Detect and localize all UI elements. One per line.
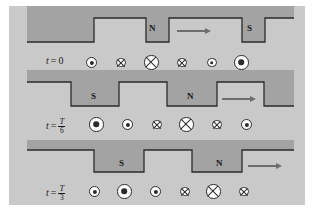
field-symbol-dot: [234, 55, 249, 70]
wave-outline-t-over-3: [9, 134, 305, 179]
pole-label-s: S: [91, 92, 96, 101]
magnetic-field-figure: N S t=0: [9, 6, 305, 205]
motion-arrow-icon: [248, 163, 282, 169]
field-symbol-dot: [150, 186, 161, 197]
field-symbol-dot: [207, 58, 217, 68]
pole-label-s: S: [119, 159, 124, 168]
pole-label-n: N: [216, 159, 223, 168]
pole-label-n: N: [187, 92, 194, 101]
field-symbol-dot: [86, 57, 97, 68]
panel-t0: N S t=0: [9, 6, 305, 70]
field-symbol-cross: [179, 117, 194, 132]
field-symbol-cross: [212, 120, 222, 130]
wave-outline-t-over-6: [9, 70, 305, 115]
pole-label-n: N: [149, 24, 156, 33]
field-symbol-cross: [180, 187, 190, 197]
field-symbol-cross: [206, 184, 221, 199]
field-symbol-cross: [177, 58, 187, 68]
field-symbol-cross: [116, 58, 126, 68]
motion-arrow-icon: [177, 28, 211, 34]
symbol-row-t-over-3: [9, 180, 305, 205]
field-symbol-dot: [89, 117, 104, 132]
field-symbol-dot: [89, 186, 100, 197]
wave-outline-t0: [9, 6, 305, 51]
field-symbol-cross: [152, 120, 162, 130]
field-symbol-dot: [241, 119, 252, 130]
panel-t-over-3: S N t=T3: [9, 134, 305, 198]
field-symbol-dot: [122, 119, 133, 130]
field-symbol-cross: [144, 55, 159, 70]
pole-label-s: S: [247, 24, 252, 33]
field-symbol-cross: [239, 187, 249, 197]
motion-arrow-icon: [222, 96, 256, 102]
field-symbol-dot: [117, 184, 132, 199]
panel-t-over-6: S N t=T6: [9, 70, 305, 134]
